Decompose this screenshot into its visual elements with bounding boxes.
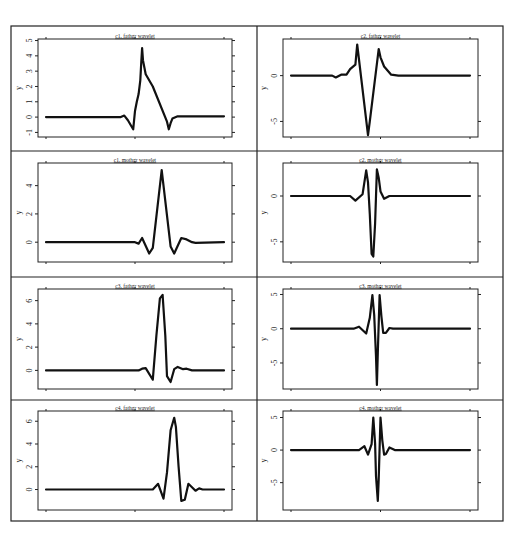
y-axis-label: y — [14, 459, 23, 463]
y-tick-label: 0 — [270, 194, 279, 198]
y-tick-label: 2 — [25, 465, 34, 469]
y-tick-label: -5 — [270, 118, 279, 125]
y-axis-label: y — [14, 211, 23, 215]
panels: c1. fathgr wavelet-1012345yc2. fathgr wa… — [14, 33, 481, 513]
chart-panel-2: c2. fathgr wavelet-50y — [259, 33, 481, 140]
y-tick-label: -5 — [270, 360, 279, 367]
chart-panel-5: c3. fathgr wavelet0246y — [14, 283, 235, 392]
y-tick-label: 6 — [25, 299, 34, 303]
y-tick-label: -5 — [270, 238, 279, 245]
y-tick-label: -5 — [270, 479, 279, 486]
chart-panel-8: c4. mothgr wavelet-505y — [259, 405, 481, 513]
wavelet-figure: c1. fathgr wavelet-1012345yc2. fathgr wa… — [0, 0, 527, 547]
plot-area — [38, 39, 232, 137]
chart-panel-7: c4. fathgr wavelet0246y — [14, 405, 235, 513]
y-tick-label: 4 — [25, 54, 34, 58]
y-tick-label: 4 — [25, 322, 34, 326]
y-tick-label: 2 — [25, 345, 34, 349]
chart-panel-6: c3. mothgr wavelet-505y — [259, 283, 481, 392]
plot-area — [283, 163, 478, 262]
y-axis-label: y — [14, 86, 23, 90]
chart-panel-3: c1. mothgr wavelet024y — [14, 157, 235, 265]
y-tick-label: 5 — [25, 39, 34, 43]
y-tick-label: 2 — [25, 212, 34, 216]
y-tick-label: 0 — [25, 240, 34, 244]
y-axis-label: y — [259, 337, 268, 341]
y-tick-label: 6 — [25, 419, 34, 423]
y-tick-label: 0 — [25, 488, 34, 492]
y-tick-label: 1 — [25, 100, 34, 104]
y-tick-label: 0 — [270, 327, 279, 331]
plot-area — [38, 163, 232, 262]
y-tick-label: 4 — [25, 184, 34, 188]
plot-area — [38, 289, 232, 389]
chart-panel-4: c2. mothgr wavelet-50y — [259, 157, 481, 265]
y-tick-label: 2 — [25, 84, 34, 88]
y-axis-label: y — [14, 337, 23, 341]
y-tick-label: 0 — [270, 448, 279, 452]
plot-area — [38, 411, 232, 510]
y-tick-label: 0 — [25, 115, 34, 119]
y-axis-label: y — [259, 459, 268, 463]
y-tick-label: 3 — [25, 69, 34, 73]
y-tick-label: 5 — [270, 416, 279, 420]
y-tick-label: 0 — [270, 74, 279, 78]
y-tick-label: 4 — [25, 442, 34, 446]
y-tick-label: 5 — [270, 292, 279, 296]
y-axis-label: y — [259, 211, 268, 215]
chart-panel-1: c1. fathgr wavelet-1012345y — [14, 33, 235, 140]
y-tick-label: 0 — [25, 368, 34, 372]
y-tick-label: -1 — [25, 129, 34, 136]
y-axis-label: y — [259, 86, 268, 90]
